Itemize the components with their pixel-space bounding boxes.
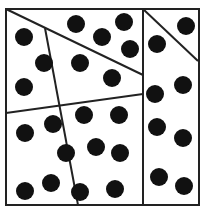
dot	[115, 13, 133, 31]
dot	[57, 144, 75, 162]
dot	[148, 118, 166, 136]
dot	[146, 85, 164, 103]
dot	[87, 138, 105, 156]
dot	[75, 106, 93, 124]
dot	[71, 183, 89, 201]
dot	[67, 15, 85, 33]
dot	[44, 115, 62, 133]
dot	[16, 124, 34, 142]
dot-partition-diagram	[0, 0, 208, 219]
dot	[93, 28, 111, 46]
dot	[110, 106, 128, 124]
dot	[111, 144, 129, 162]
dot	[35, 54, 53, 72]
dot	[106, 180, 124, 198]
dot	[15, 78, 33, 96]
dot	[42, 174, 60, 192]
dot	[71, 54, 89, 72]
dot	[175, 177, 193, 195]
dot	[15, 28, 33, 46]
dot	[174, 129, 192, 147]
dot	[150, 168, 168, 186]
dot	[121, 40, 139, 58]
dot	[177, 17, 195, 35]
dot	[148, 35, 166, 53]
dot	[174, 76, 192, 94]
dot	[16, 182, 34, 200]
dot	[103, 69, 121, 87]
